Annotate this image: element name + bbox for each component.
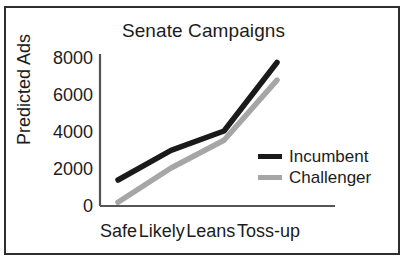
x-tick-likely: Likely [139, 221, 185, 242]
legend-item-challenger: Challenger [258, 167, 398, 188]
chart-legend: Incumbent Challenger [258, 146, 398, 188]
legend-swatch-challenger [258, 175, 282, 180]
x-tick-tossup: Toss-up [237, 221, 300, 242]
legend-label-challenger: Challenger [289, 168, 371, 188]
series-line-incumbent [118, 63, 277, 181]
chart-figure: Senate Campaigns Predicted Ads 8000 6000… [0, 0, 407, 264]
x-tick-leans: Leans [186, 221, 235, 242]
legend-label-incumbent: Incumbent [289, 147, 368, 167]
x-tick-safe: Safe [100, 221, 137, 242]
x-axis-tick-labels: Safe Likely Leans Toss-up [100, 221, 300, 242]
legend-item-incumbent: Incumbent [258, 146, 398, 167]
legend-swatch-incumbent [258, 154, 282, 159]
